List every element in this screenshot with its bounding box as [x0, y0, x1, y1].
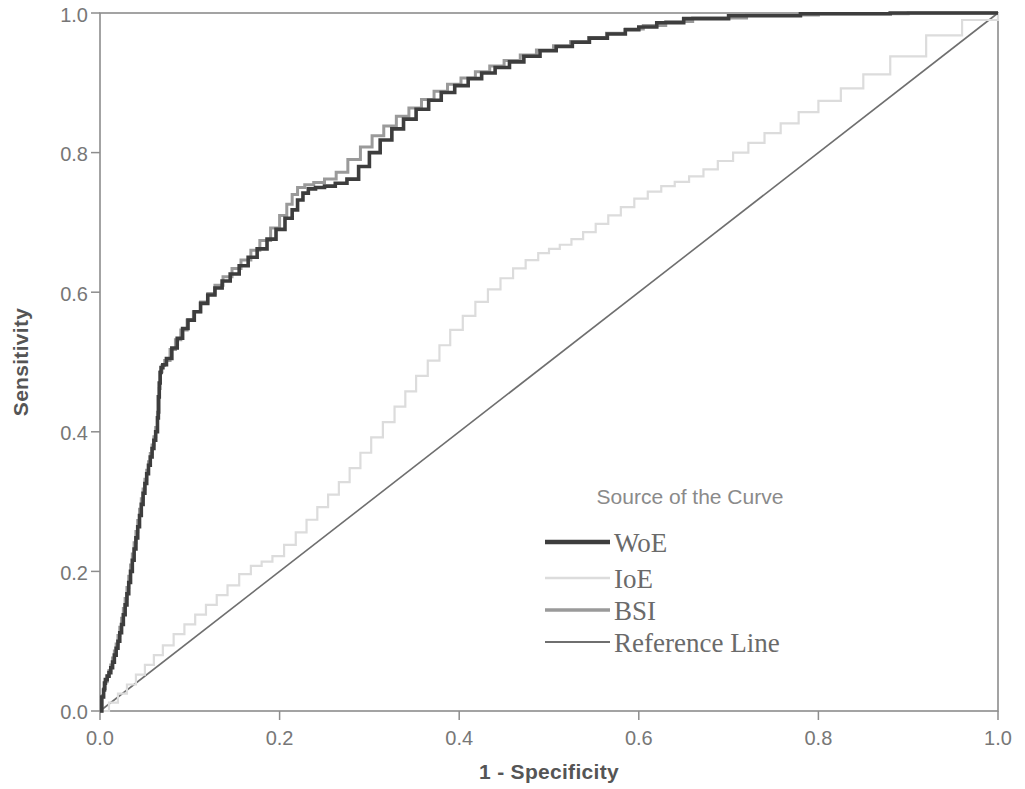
legend-label-ioe: IoE: [614, 564, 653, 594]
y-tick-label: 0.8: [60, 143, 88, 165]
y-axis-title: Sensitivity: [9, 308, 32, 416]
x-tick-label: 0.6: [625, 727, 653, 749]
legend-label-woe: WoE: [614, 528, 667, 558]
y-tick-label: 0.6: [60, 283, 88, 305]
x-tick-label: 0.0: [86, 727, 114, 749]
x-tick-label: 0.8: [804, 727, 832, 749]
x-tick-label: 1.0: [984, 727, 1012, 749]
legend-label-bsi: BSI: [614, 596, 656, 626]
legend-label-reference-line: Reference Line: [614, 628, 780, 658]
y-tick-label: 0.0: [60, 701, 88, 723]
x-tick-label: 0.4: [445, 727, 473, 749]
x-axis-title: 1 - Specificity: [479, 760, 619, 783]
y-tick-label: 0.2: [60, 562, 88, 584]
figure-background: [0, 0, 1025, 789]
roc-curve-figure: 0.0 0.2 0.4 0.6 0.8 1.0 0.0 0.2 0.4 0.6 …: [0, 0, 1025, 789]
y-tick-label: 1.0: [60, 4, 88, 26]
y-tick-label: 0.4: [60, 422, 88, 444]
x-tick-label: 0.2: [266, 727, 294, 749]
legend-title: Source of the Curve: [597, 485, 784, 508]
